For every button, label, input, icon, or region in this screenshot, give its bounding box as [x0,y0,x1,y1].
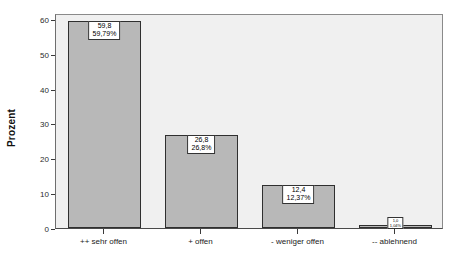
bar-slot: 59,859,79% [68,15,142,228]
bar-value-number: 59,8 [93,22,117,30]
bars-layer: 59,859,79%26,826,8%12,412,37%1,01,04% [56,15,442,228]
x-axis-tick-mark [297,229,298,234]
y-axis-tick: 30 [40,120,55,130]
y-axis-tick-label: 10 [40,190,51,199]
bar-value-label: 1,01,04% [388,217,403,229]
x-axis-category-label: + offen [152,237,249,246]
y-axis-tick: 50 [40,51,55,61]
y-axis: 0102030405060 [24,14,55,229]
x-axis-tick-mark [103,229,104,234]
y-axis-tick-label: 40 [40,86,51,95]
x-axis-category: -- ablehnend [346,229,443,246]
bar-value-label: 26,826,8% [188,135,216,154]
chart-screenshot: Prozent 0102030405060 59,859,79%26,826,8… [0,0,456,261]
bar-slot: 26,826,8% [165,15,239,228]
bar-value-label: 12,412,37% [283,185,315,204]
y-axis-tick: 20 [40,155,55,165]
y-axis-tick: 60 [40,16,55,26]
y-axis-tick-label: 60 [40,16,51,25]
bar-slot: 12,412,37% [262,15,336,228]
bar-value-percent: 26,8% [192,144,212,152]
bar-value-label: 59,859,79% [89,21,121,40]
bar-value-number: 12,4 [287,186,311,194]
x-axis-category-label: -- ablehnend [346,237,443,246]
x-axis-category-label: - weniger offen [249,237,346,246]
y-axis-tick-label: 50 [40,51,51,60]
x-axis-tick-mark [200,229,201,234]
y-axis-tick: 10 [40,189,55,199]
y-axis-title: Prozent [2,78,20,178]
x-axis-category: ++ sehr offen [55,229,152,246]
bar-value-percent: 59,79% [93,30,117,38]
bar-slot: 1,01,04% [359,15,433,228]
bar-value-percent: 12,37% [287,194,311,202]
bar-value-number: 26,8 [192,136,212,144]
plot-area: 59,859,79%26,826,8%12,412,37%1,01,04% [55,14,443,229]
y-axis-tick-label: 30 [40,120,51,129]
x-axis-category-label: ++ sehr offen [55,237,152,246]
bar[interactable] [68,21,142,228]
x-axis-tick-mark [394,229,395,234]
x-axis-category: - weniger offen [249,229,346,246]
x-axis-category: + offen [152,229,249,246]
y-axis-tick: 0 [45,224,55,234]
y-axis-tick: 40 [40,85,55,95]
bar-value-percent: 1,04% [390,223,401,228]
y-axis-tick-label: 20 [40,155,51,164]
x-axis: ++ sehr offen+ offen- weniger offen-- ab… [55,229,443,257]
